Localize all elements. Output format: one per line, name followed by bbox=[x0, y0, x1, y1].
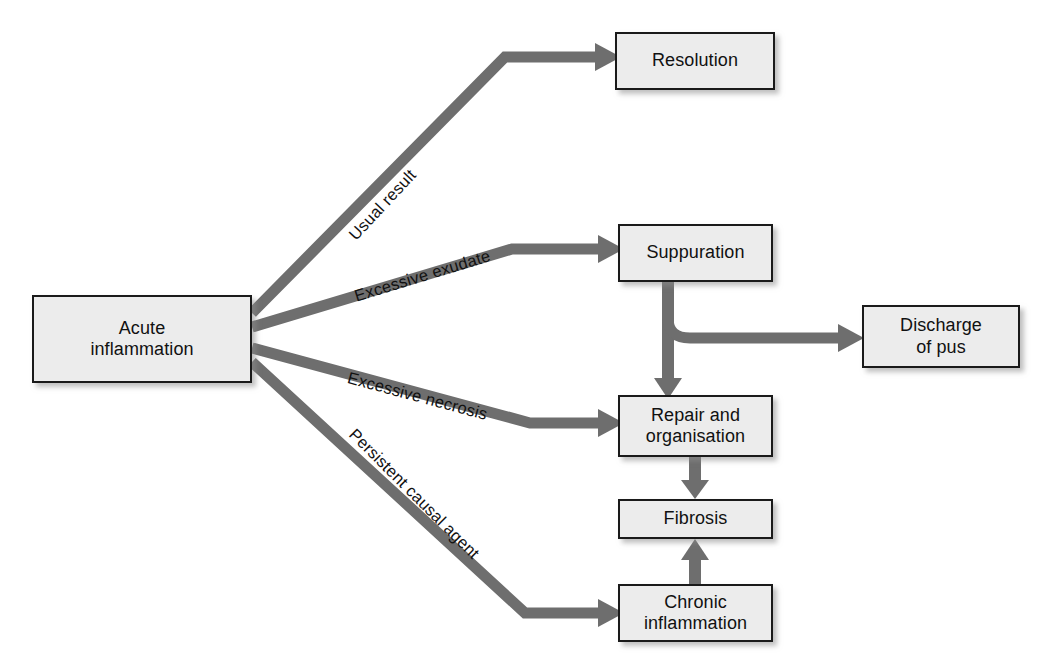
node-label-discharge-of-pus: Discharge of pus bbox=[894, 315, 988, 357]
node-label-fibrosis: Fibrosis bbox=[658, 508, 734, 529]
node-acute-inflammation[interactable]: Acute inflammation bbox=[32, 295, 252, 383]
edge-repair-to-fibrosis bbox=[681, 457, 709, 499]
node-suppuration[interactable]: Suppuration bbox=[618, 224, 773, 282]
node-resolution[interactable]: Resolution bbox=[615, 32, 775, 90]
node-fibrosis[interactable]: Fibrosis bbox=[618, 499, 773, 539]
node-label-suppuration: Suppuration bbox=[640, 242, 750, 263]
flowchart-diagram: Acute inflammation Resolution Suppuratio… bbox=[0, 0, 1038, 667]
node-discharge-of-pus[interactable]: Discharge of pus bbox=[862, 305, 1020, 368]
node-chronic-inflammation[interactable]: Chronic inflammation bbox=[618, 584, 773, 642]
node-label-chronic-inflammation: Chronic inflammation bbox=[638, 592, 753, 634]
node-label-resolution: Resolution bbox=[646, 50, 744, 71]
edge-chronic-to-fibrosis bbox=[681, 539, 709, 584]
node-repair-and-organisation[interactable]: Repair and organisation bbox=[618, 395, 773, 457]
edge-suppuration-to-discharge bbox=[668, 318, 864, 352]
node-label-acute-inflammation: Acute inflammation bbox=[84, 318, 199, 360]
node-label-repair-and-organisation: Repair and organisation bbox=[640, 405, 751, 447]
